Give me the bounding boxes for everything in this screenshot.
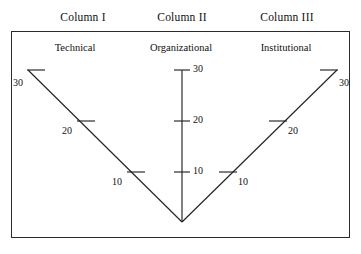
column-header-3: Column III — [232, 11, 342, 23]
center-tick-label-20: 20 — [193, 115, 203, 125]
left-tick-label-20: 20 — [62, 126, 72, 136]
column-header-2: Column II — [127, 11, 237, 23]
column-subheader-institutional: Institutional — [231, 42, 341, 53]
column-header-1: Column I — [28, 11, 138, 23]
right-tick-label-30: 30 — [339, 78, 349, 88]
column-subheader-organizational: Organizational — [126, 42, 236, 53]
left-tick-label-10: 10 — [112, 177, 122, 187]
diagram-canvas: Column I Column II Column III Technical … — [0, 0, 361, 254]
right-tick-label-10: 10 — [238, 177, 248, 187]
right-tick-label-20: 20 — [288, 126, 298, 136]
column-subheader-technical: Technical — [20, 42, 130, 53]
center-tick-label-30: 30 — [193, 64, 203, 74]
left-tick-label-30: 30 — [13, 78, 23, 88]
center-tick-label-10: 10 — [193, 166, 203, 176]
